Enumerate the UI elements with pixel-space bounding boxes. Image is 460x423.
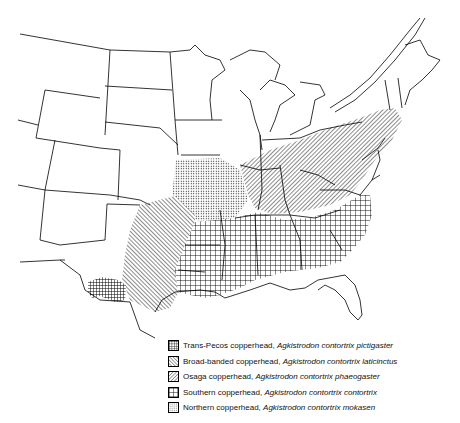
swatch-stipple-icon — [168, 402, 179, 413]
legend-scientific-name: Agkistrodon contortrix contortrix — [264, 388, 377, 397]
swatch-backward-diagonal-icon — [168, 371, 179, 382]
legend-item-osage: Osaga copperhead, Agkistrodon contortrix… — [168, 369, 460, 385]
swatch-dense-crosshatch-icon — [168, 340, 179, 351]
swatch-open-grid-icon — [168, 387, 179, 398]
legend-item-southern: Southern copperhead, Agkistrodon contort… — [168, 385, 460, 401]
legend-scientific-name: Agkistrodon contortrix phaeogaster — [256, 372, 380, 381]
legend: Trans-Pecos copperhead, Agkistrodon cont… — [168, 338, 460, 416]
legend-common-name: Broad-banded copperhead, — [183, 357, 283, 366]
legend-scientific-name: Agkistrodon contortrix pictigaster — [277, 341, 393, 350]
legend-common-name: Osaga copperhead, — [183, 372, 256, 381]
legend-scientific-name: Agkistrodon contortrix mokasen — [263, 403, 375, 412]
swatch-forward-diagonal-icon — [168, 356, 179, 367]
range-regions — [88, 108, 402, 312]
range-trans-pecos — [88, 277, 126, 302]
legend-scientific-name: Agkistrodon contortrix laticinctus — [283, 357, 398, 366]
legend-item-broad-banded: Broad-banded copperhead, Agkistrodon con… — [168, 354, 460, 370]
range-osage-east — [240, 108, 402, 214]
legend-item-trans-pecos: Trans-Pecos copperhead, Agkistrodon cont… — [168, 338, 460, 354]
legend-common-name: Northern copperhead, — [183, 403, 263, 412]
legend-common-name: Southern copperhead, — [183, 388, 264, 397]
legend-item-northern: Northern copperhead, Agkistrodon contort… — [168, 400, 460, 416]
legend-common-name: Trans-Pecos copperhead, — [183, 341, 277, 350]
